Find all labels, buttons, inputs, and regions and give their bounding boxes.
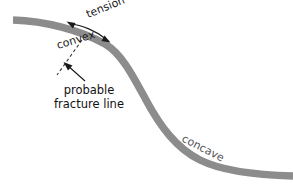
label-tension: tension xyxy=(84,0,126,21)
fold-diagram-container: tension convex concave probable fracture… xyxy=(0,0,293,196)
label-probable: probable xyxy=(64,83,115,97)
label-fracture-line: fracture line xyxy=(54,97,124,111)
fold-cross-section-diagram: tension convex concave probable fracture… xyxy=(0,0,293,196)
fracture-leader-group xyxy=(64,62,86,81)
